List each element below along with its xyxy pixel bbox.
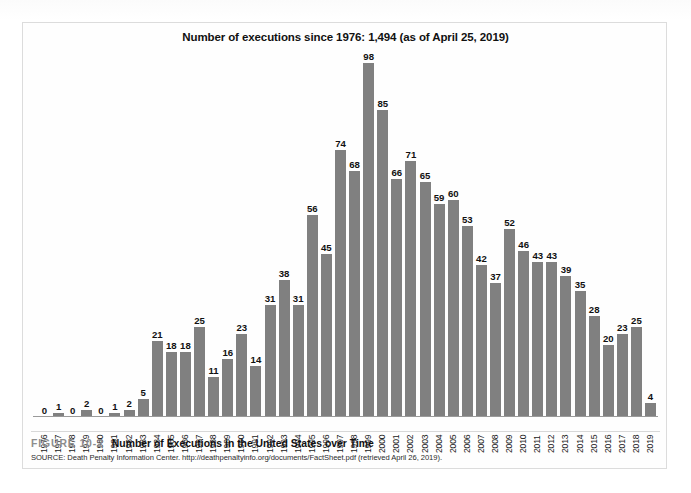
bar-column: 0 (95, 47, 106, 417)
bar-column: 14 (250, 47, 261, 417)
bar-value-label: 23 (236, 323, 247, 333)
bar (377, 110, 388, 417)
bar-column: 4 (645, 47, 656, 417)
bar (208, 377, 219, 417)
bar-value-label: 21 (152, 330, 163, 340)
bar-column: 45 (321, 47, 332, 417)
bar-series: 0102012521181825111623143138315645746898… (33, 47, 658, 417)
bar-value-label: 68 (349, 160, 360, 170)
bar-chart-plot-area: 0102012521181825111623143138315645746898… (33, 47, 658, 417)
bar-column: 68 (349, 47, 360, 417)
bar-column: 59 (434, 47, 445, 417)
bar-value-label: 31 (293, 294, 304, 304)
bar-value-label: 2 (126, 399, 131, 409)
bar-column: 21 (152, 47, 163, 417)
bar-value-label: 43 (547, 251, 558, 261)
bar-column: 66 (391, 47, 402, 417)
bar-value-label: 25 (631, 316, 642, 326)
bar (138, 399, 149, 417)
bar-column: 38 (279, 47, 290, 417)
scan-noise (0, 0, 691, 20)
bar-value-label: 1 (112, 402, 117, 412)
bar (631, 327, 642, 417)
bar (575, 291, 586, 417)
bar (476, 265, 487, 417)
bar-column: 98 (363, 47, 374, 417)
bar (293, 305, 304, 417)
bar-column: 23 (236, 47, 247, 417)
bar-value-label: 0 (42, 406, 47, 416)
bar (152, 341, 163, 417)
bar (166, 352, 177, 417)
bar (603, 345, 614, 417)
figure-number: FIGURE 10-2 (31, 438, 104, 449)
bar-column: 65 (420, 47, 431, 417)
chart-title: Number of executions since 1976: 1,494 (… (23, 31, 668, 43)
bar (617, 334, 628, 417)
bar-column: 16 (222, 47, 233, 417)
bar (349, 171, 360, 417)
bar-column: 56 (307, 47, 318, 417)
bar (180, 352, 191, 417)
bar (518, 251, 529, 417)
bar (504, 229, 515, 417)
bar-value-label: 98 (363, 52, 374, 62)
bar-value-label: 18 (180, 341, 191, 351)
bar-value-label: 52 (504, 218, 515, 228)
bar-column: 46 (518, 47, 529, 417)
bar-value-label: 28 (589, 305, 600, 315)
bar-value-label: 59 (434, 193, 445, 203)
bar-column: 52 (504, 47, 515, 417)
bar-value-label: 85 (377, 99, 388, 109)
figure-panel: Number of executions since 1976: 1,494 (… (22, 22, 667, 469)
bar-value-label: 66 (392, 168, 403, 178)
bar-value-label: 31 (265, 294, 276, 304)
bar-value-label: 23 (617, 323, 628, 333)
bar-column: 31 (293, 47, 304, 417)
bar-value-label: 65 (420, 171, 431, 181)
bar-column: 11 (208, 47, 219, 417)
x-axis-line (33, 416, 658, 417)
bar-value-label: 16 (222, 348, 233, 358)
bar-value-label: 20 (603, 334, 614, 344)
bar-column: 5 (138, 47, 149, 417)
bar (363, 63, 374, 417)
bar-value-label: 14 (251, 355, 262, 365)
bar-value-label: 60 (448, 189, 459, 199)
bar-value-label: 0 (70, 406, 75, 416)
caption-divider (31, 431, 660, 432)
bar-column: 71 (405, 47, 416, 417)
bar-column: 28 (589, 47, 600, 417)
figure-caption: FIGURE 10-2 Number of Executions in the … (23, 431, 668, 462)
bar-column: 23 (617, 47, 628, 417)
bar-value-label: 4 (648, 392, 653, 402)
bar-value-label: 71 (406, 150, 417, 160)
bar (434, 204, 445, 417)
bar-column: 35 (575, 47, 586, 417)
bar-value-label: 25 (194, 316, 205, 326)
bar-value-label: 53 (462, 215, 473, 225)
bar-column: 39 (560, 47, 571, 417)
bar (335, 150, 346, 417)
bar-value-label: 5 (140, 388, 145, 398)
bar-column: 0 (39, 47, 50, 417)
bar-value-label: 43 (532, 251, 543, 261)
bar-column: 74 (335, 47, 346, 417)
bar-column: 60 (448, 47, 459, 417)
bar-value-label: 74 (335, 139, 346, 149)
bar (250, 366, 261, 417)
bar (546, 262, 557, 417)
bar (448, 200, 459, 417)
bar-column: 0 (67, 47, 78, 417)
bar (391, 179, 402, 417)
bar (490, 283, 501, 417)
bar (462, 226, 473, 417)
bar-column: 25 (631, 47, 642, 417)
bar-value-label: 42 (476, 254, 487, 264)
bar-value-label: 18 (166, 341, 177, 351)
bar (420, 182, 431, 417)
bar-value-label: 0 (98, 406, 103, 416)
figure-source: SOURCE: Death Penalty Information Center… (31, 453, 660, 462)
bar-column: 43 (532, 47, 543, 417)
bar-value-label: 39 (561, 265, 572, 275)
